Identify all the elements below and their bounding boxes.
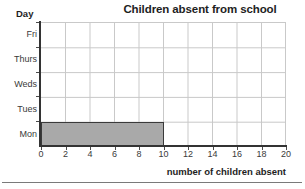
y-tick-mark-thurs bbox=[36, 47, 39, 48]
y-axis-title: Day bbox=[16, 8, 33, 19]
y-tick-label-fri: Fri bbox=[27, 29, 38, 39]
x-tick-label-18: 18 bbox=[252, 149, 272, 159]
y-tick-mark-weds bbox=[36, 72, 39, 73]
y-tick-label-thurs: Thurs bbox=[14, 54, 37, 64]
chart-title: Children absent from school bbox=[100, 3, 300, 15]
y-tick-label-tues: Tues bbox=[17, 104, 37, 114]
x-tick-label-4: 4 bbox=[80, 149, 100, 159]
y-tick-label-weds: Weds bbox=[14, 79, 37, 89]
x-tick-label-20: 20 bbox=[276, 149, 296, 159]
bar-chart-figure: Children absent from school Day bbox=[0, 0, 305, 189]
x-tick-label-14: 14 bbox=[203, 149, 223, 159]
x-tick-label-6: 6 bbox=[105, 149, 125, 159]
plot-area bbox=[41, 22, 286, 146]
x-tick-label-10: 10 bbox=[154, 149, 174, 159]
page-divider bbox=[2, 182, 302, 183]
x-tick-label-16: 16 bbox=[227, 149, 247, 159]
bar-mon bbox=[41, 122, 164, 147]
x-tick-label-8: 8 bbox=[129, 149, 149, 159]
x-tick-label-12: 12 bbox=[178, 149, 198, 159]
y-axis-line bbox=[39, 21, 41, 147]
y-tick-mark-tues bbox=[36, 96, 39, 97]
y-tick-mark-fri bbox=[36, 22, 39, 23]
x-tick-label-2: 2 bbox=[56, 149, 76, 159]
x-axis-title: number of children absent bbox=[120, 166, 286, 177]
y-tick-label-mon: Mon bbox=[19, 129, 37, 139]
x-tick-label-0: 0 bbox=[31, 149, 51, 159]
y-tick-mark-mon bbox=[36, 121, 39, 122]
